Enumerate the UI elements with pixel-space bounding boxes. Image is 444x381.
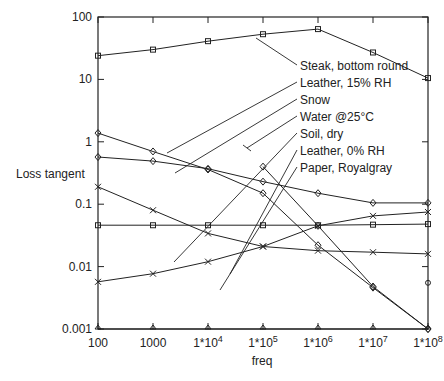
series-soil-dry: [95, 209, 431, 285]
svg-text:Steak, bottom round: Steak, bottom round: [300, 59, 408, 73]
series-leather-0-rh: [96, 222, 431, 228]
svg-text:Snow: Snow: [300, 93, 330, 107]
x-tick-label: 1*108: [413, 334, 443, 350]
y-tick-label: 1: [85, 135, 92, 149]
y-tick-label: 0.001: [62, 322, 92, 336]
svg-text:Water @25°C: Water @25°C: [300, 110, 374, 124]
x-tick-label: 1000: [140, 336, 167, 350]
y-axis-title: Loss tangent: [16, 167, 85, 181]
x-tick-label: 1*106: [303, 334, 333, 350]
loss-tangent-chart: 0.0010.010.1110100 10010001*1041*1051*10…: [0, 0, 444, 381]
x-tick-label: 1*105: [248, 334, 278, 350]
svg-text:Soil, dry: Soil, dry: [300, 127, 343, 141]
y-tick-label: 0.1: [75, 197, 92, 211]
y-tick-label: 10: [79, 72, 93, 86]
series-label: Steak, bottom round: [256, 38, 408, 73]
svg-text:Paper, Royalgray: Paper, Royalgray: [300, 161, 392, 175]
x-axis-title: freq: [252, 354, 273, 368]
series-leather-15-rh: [95, 130, 431, 333]
x-tick-label: 1*104: [193, 334, 223, 350]
svg-text:Leather, 0% RH: Leather, 0% RH: [300, 144, 385, 158]
y-tick-label: 0.01: [69, 260, 93, 274]
svg-text:Leather, 15% RH: Leather, 15% RH: [300, 76, 391, 90]
y-tick-label: 100: [72, 10, 92, 24]
x-tick-label: 100: [88, 336, 108, 350]
x-tick-label: 1*107: [358, 334, 388, 350]
